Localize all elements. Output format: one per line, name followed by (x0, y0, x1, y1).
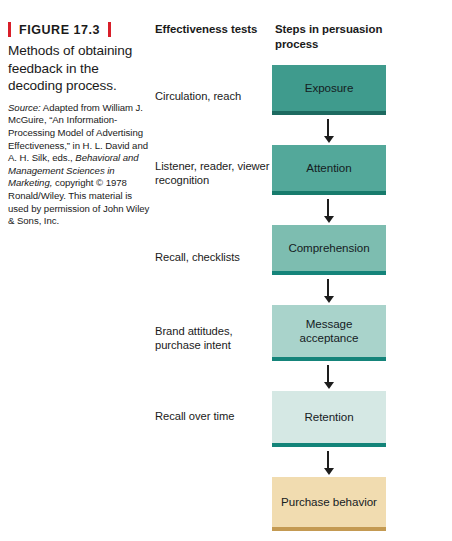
flow-box-retention-label: Retention (300, 410, 357, 424)
arrow-attention-to-comprehension (323, 199, 334, 223)
arrow-head-down-icon (324, 136, 334, 143)
test-label-recall-checklists: Recall, checklists (155, 250, 273, 264)
test-label-brand-attitudes: Brand attitudes, purchase intent (155, 324, 273, 352)
arrow-head-down-icon (324, 216, 334, 223)
arrow-stem (327, 199, 329, 216)
arrow-comprehension-to-message-acceptance (323, 279, 334, 303)
arrow-head-down-icon (324, 468, 334, 475)
arrow-stem (327, 451, 329, 468)
flow-box-purchase-behavior: Purchase behavior (272, 477, 386, 531)
arrow-retention-to-purchase-behavior (323, 451, 334, 475)
flow-box-exposure-label: Exposure (301, 81, 358, 95)
column-heading-effectiveness-tests: Effectiveness tests (155, 22, 265, 37)
figure-source-note: Source: Adapted from William J. McGuire,… (8, 102, 150, 228)
source-lead-label: Source: (8, 102, 41, 113)
figure-label-row: FIGURE 17.3 (8, 22, 150, 37)
persuasion-process-flow: Exposure Attention Comprehension Message… (272, 0, 386, 541)
flow-box-attention-label: Attention (302, 161, 355, 175)
flow-box-purchase-behavior-label: Purchase behavior (277, 495, 381, 509)
test-label-circulation-reach: Circulation, reach (155, 89, 273, 103)
arrow-head-down-icon (324, 296, 334, 303)
arrow-stem (327, 119, 329, 136)
arrow-stem (327, 365, 329, 382)
flow-box-comprehension-label: Comprehension (284, 241, 373, 255)
flow-box-attention: Attention (272, 145, 386, 195)
figure-title: Methods of obtaining feedback in the dec… (8, 42, 150, 95)
flow-box-message-acceptance-label: Message acceptance (272, 317, 386, 346)
flow-box-exposure: Exposure (272, 65, 386, 115)
red-accent-bar-left (8, 22, 11, 37)
flow-box-comprehension: Comprehension (272, 225, 386, 275)
arrow-exposure-to-attention (323, 119, 334, 143)
flow-box-retention: Retention (272, 391, 386, 447)
test-label-recall-over-time: Recall over time (155, 409, 273, 423)
test-label-listener-recognition: Listener, reader, viewer recognition (155, 159, 273, 187)
figure-label: FIGURE 17.3 (19, 23, 100, 37)
arrow-stem (327, 279, 329, 296)
figure-caption-block: FIGURE 17.3 Methods of obtaining feedbac… (8, 22, 150, 228)
red-accent-bar-right (108, 22, 111, 37)
arrow-message-acceptance-to-retention (323, 365, 334, 389)
arrow-head-down-icon (324, 382, 334, 389)
flow-box-message-acceptance: Message acceptance (272, 305, 386, 361)
